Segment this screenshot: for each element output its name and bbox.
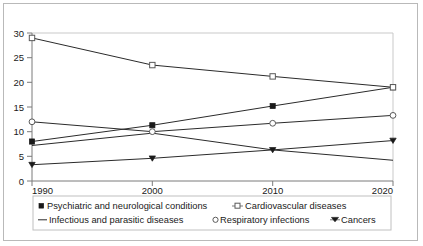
series-line <box>32 87 393 141</box>
data-point <box>29 35 34 40</box>
y-tick-label: 10 <box>13 126 24 137</box>
series-line <box>32 141 393 165</box>
y-tick-label: 15 <box>13 102 24 113</box>
y-tick-label: 5 <box>19 151 24 162</box>
legend-label-cardiovascular: Cardiovascular diseases <box>245 201 347 211</box>
y-tick-label: 20 <box>13 77 24 88</box>
x-tick-label: 2010 <box>262 185 283 196</box>
chart-figure: 0 5 10 15 20 25 30 1990 2000 2010 2020 <box>0 0 423 246</box>
series-open-square <box>29 35 395 90</box>
data-point <box>270 74 275 79</box>
y-tick-labels: 0 5 10 15 20 25 30 <box>13 28 24 187</box>
y-tick-label: 30 <box>13 28 24 39</box>
data-point <box>390 85 395 90</box>
chart-legend: Psychiatric and neurological conditions … <box>33 196 391 230</box>
series-line <box>32 115 393 131</box>
x-tick-label: 2020 <box>372 185 393 196</box>
data-series-layer <box>29 35 396 167</box>
x-axis <box>32 181 393 186</box>
filled-square-icon <box>39 204 44 209</box>
series-filled-triangle-down <box>29 138 396 167</box>
data-point <box>270 103 275 108</box>
y-tick-label: 0 <box>19 176 24 187</box>
data-point <box>149 129 155 135</box>
series-line <box>32 38 393 87</box>
data-point <box>150 123 155 128</box>
data-point <box>29 119 35 125</box>
legend-label-respiratory: Respiratory infections <box>220 215 310 225</box>
x-tick-labels: 1990 2000 2010 2020 <box>32 185 393 196</box>
series-line <box>32 133 393 160</box>
legend-label-psychiatric: Psychiatric and neurological conditions <box>47 201 208 211</box>
line-chart: 0 5 10 15 20 25 30 1990 2000 2010 2020 <box>0 0 423 246</box>
data-point <box>29 139 34 144</box>
y-axis <box>27 33 32 181</box>
series-line <box>32 133 393 160</box>
data-point <box>390 112 396 118</box>
open-circle-icon <box>213 217 218 222</box>
x-tick-label: 1990 <box>32 185 53 196</box>
data-point <box>270 120 276 126</box>
legend-label-cancers: Cancers <box>341 215 376 225</box>
legend-label-infectious: Infectious and parasitic diseases <box>49 215 184 225</box>
data-point <box>150 62 155 67</box>
y-tick-label: 25 <box>13 52 24 63</box>
plot-area-border <box>32 33 393 181</box>
x-tick-label: 2000 <box>142 185 163 196</box>
series-filled-square <box>29 85 395 144</box>
